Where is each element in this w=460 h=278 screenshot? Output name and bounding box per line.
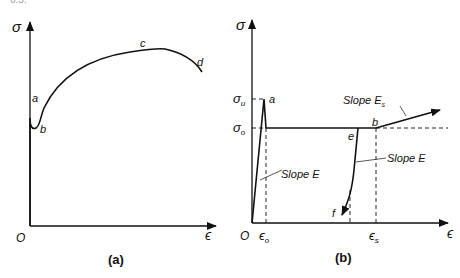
leader-slope-e-left	[260, 170, 282, 180]
slope-e-right-label: Slope E	[387, 152, 426, 164]
point-b-label-b: b	[372, 116, 378, 128]
point-a-label-b: a	[269, 93, 275, 105]
point-c-label: c	[140, 37, 146, 49]
leader-slope-e-right	[356, 158, 386, 162]
point-f-label: f	[332, 207, 336, 219]
point-e-label: e	[348, 130, 354, 142]
eps-s-label: ϵs	[369, 228, 379, 245]
sigma-u-label: σu	[233, 91, 246, 108]
caption-b: (b)	[335, 250, 352, 265]
slope-es-label: Slope Es	[343, 94, 386, 108]
epsilon-axis-label-b: ϵ	[447, 225, 454, 241]
sigma-axis-label-b: σ	[236, 16, 246, 33]
panel-b: σ ϵ O σu σo ϵo ϵs a b e f Slope E Slope …	[233, 16, 454, 265]
origin-label-a: O	[16, 231, 25, 245]
epsilon-axis-label-a: ϵ	[205, 227, 212, 243]
origin-label-b: O	[240, 229, 249, 243]
slope-e-left-label: Slope E	[281, 168, 320, 180]
stress-strain-curve-b	[252, 99, 376, 223]
point-a-label: a	[32, 92, 38, 104]
sigma-o-label: σo	[233, 120, 246, 137]
caption-a: (a)	[108, 252, 124, 267]
stress-strain-curve-a	[30, 49, 202, 226]
point-b-label: b	[40, 123, 46, 135]
sigma-axis-label-a: σ	[12, 18, 22, 35]
panel-a: σ ϵ O a b c d (a)	[12, 18, 216, 267]
point-d-label: d	[197, 56, 204, 68]
hardening-branch	[376, 110, 440, 128]
stress-strain-diagrams: σ ϵ O a b c d (a) σ ϵ O σu	[0, 0, 460, 278]
leader-slope-es	[400, 106, 406, 116]
eps-o-label: ϵo	[259, 228, 270, 245]
